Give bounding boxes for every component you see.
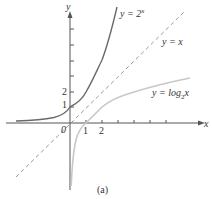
figure-caption: (a) xyxy=(97,184,108,196)
log-curve-label: y = log2x xyxy=(151,87,189,101)
figure: y x 0 1 2 1 2 y = 2x y = x y = log2x (a) xyxy=(0,0,212,199)
y-tick-label-2: 2 xyxy=(62,86,67,97)
x-axis-label: x xyxy=(203,118,209,129)
x-tick-label-1: 1 xyxy=(83,125,88,136)
y-axis-label: y xyxy=(65,1,71,12)
y-tick-label-1: 1 xyxy=(62,99,67,110)
identity-line-label: y = x xyxy=(161,36,183,47)
y-axis-arrow-icon xyxy=(68,11,73,18)
exp-curve-label: y = 2x xyxy=(119,7,145,19)
x-tick-label-2: 2 xyxy=(99,125,104,136)
y-ticks xyxy=(70,29,74,107)
origin-label: 0 xyxy=(61,124,66,135)
